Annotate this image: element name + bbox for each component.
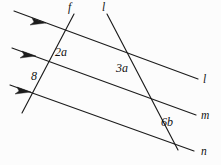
parallel-line-l <box>14 11 198 79</box>
label-angle-8: 8 <box>31 70 37 82</box>
label-parallel-line-m: m <box>201 110 209 122</box>
arrowhead-line-m <box>20 51 36 58</box>
geometry-figure: f l 2a 3a 8 6b l m n <box>0 0 221 165</box>
label-angle-2a: 2a <box>55 46 67 58</box>
label-transversal-l: l <box>102 2 105 14</box>
label-transversal-f: f <box>68 2 71 14</box>
label-angle-3a: 3a <box>116 62 128 74</box>
arrowhead-line-n <box>15 87 31 94</box>
label-angle-6b: 6b <box>161 116 173 128</box>
label-parallel-line-n: n <box>201 146 207 158</box>
transversal-line-l <box>107 14 178 150</box>
parallel-line-m <box>12 48 196 115</box>
label-parallel-line-l: l <box>203 74 206 86</box>
